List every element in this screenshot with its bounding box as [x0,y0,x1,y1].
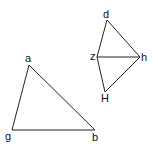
figure-dzhH [97,20,140,92]
label-H: H [101,92,109,104]
label-a: a [25,52,32,64]
label-d: d [103,8,109,20]
edge-a-g [12,65,29,130]
label-z: z [90,50,96,62]
label-b: b [92,131,98,143]
label-h: h [141,51,147,63]
edge-d-z [97,20,107,57]
triangle-agb [12,65,95,130]
edge-z-H [97,57,105,92]
edge-H-h [105,57,140,92]
geometry-diagram: a g b d z h H [0,0,158,151]
edge-a-b [29,65,95,130]
edge-d-h [107,20,140,57]
label-g: g [5,130,11,142]
